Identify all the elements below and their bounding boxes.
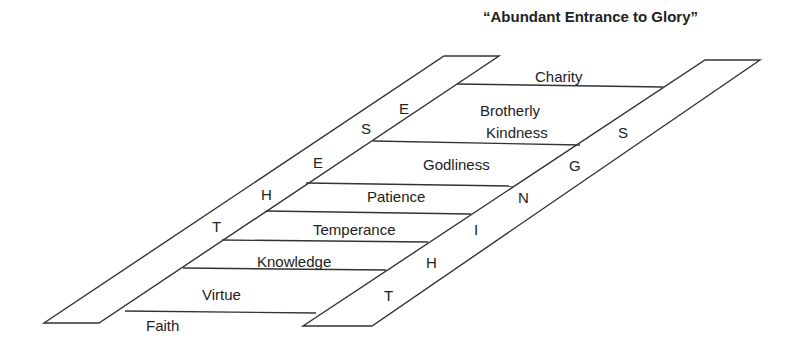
rung-label-faith: Faith [146,317,179,334]
right-rail-letter: H [426,254,437,271]
left-rail-letter: T [212,218,221,235]
rung-label-charity: Charity [535,68,583,85]
left-rail-letter: H [261,186,272,203]
rung-label-knowledge: Knowledge [257,253,331,270]
left-rail-letter: E [313,154,323,171]
left-rail-letter: E [399,100,409,117]
right-rail-letter: I [474,221,478,238]
right-rail-letter: S [618,124,628,141]
rung-temperance [222,240,428,242]
right-rail-letter: N [518,189,529,206]
rung-patience [266,211,471,214]
rung-label-brotherly: Brotherly [480,102,540,119]
right-rail-letter: G [569,157,581,174]
left-rail-letter: S [361,120,371,137]
rung-godliness [306,183,513,186]
right-rail-letter: T [384,287,393,304]
rung-brotherly [373,141,580,145]
rung-label-patience: Patience [367,188,425,205]
rung-label-temperance: Temperance [313,221,396,238]
rung-label-kindness: Kindness [486,124,548,141]
rung-label-godliness: Godliness [423,156,490,173]
ladder-drawing [0,0,806,358]
rung-faith [125,311,316,313]
rung-label-virtue: Virtue [202,286,241,303]
